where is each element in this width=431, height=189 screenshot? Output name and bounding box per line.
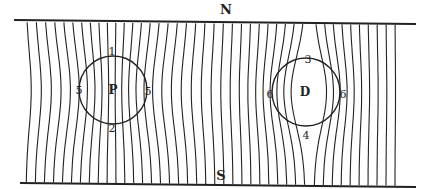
north-pole-plate — [14, 20, 416, 24]
body-D-marker-top: 3 — [305, 53, 312, 66]
body-D-label: D — [300, 85, 310, 99]
body-P-marker-right: 5 — [145, 85, 152, 98]
south-label: S — [216, 168, 225, 183]
field-line — [162, 23, 170, 183]
field-line — [144, 23, 152, 183]
field-line — [256, 24, 260, 185]
field-line — [377, 25, 378, 186]
field-line — [211, 24, 215, 185]
field-line — [44, 22, 51, 182]
field-line — [239, 24, 242, 185]
field-line — [129, 23, 134, 183]
field-line — [72, 23, 80, 183]
body-P-marker-left: 5 — [76, 84, 83, 97]
field-line — [359, 25, 362, 186]
field-line — [248, 24, 251, 185]
body-D-marker-bottom: 4 — [303, 129, 310, 142]
field-line — [323, 24, 333, 185]
field-diagram: N S P 1 2 5 5 D 3 4 6 6 — [0, 0, 431, 189]
field-line — [191, 23, 196, 183]
field-line — [181, 23, 187, 183]
field-line — [230, 24, 233, 185]
field-line — [63, 22, 71, 182]
field-line — [221, 24, 224, 185]
field-line — [263, 24, 269, 185]
body-D-marker-right: 6 — [340, 88, 347, 101]
south-pole-plate — [20, 183, 416, 187]
field-line — [332, 24, 340, 185]
field-line — [26, 22, 31, 182]
north-label: N — [220, 2, 232, 17]
body-P-marker-top: 1 — [109, 45, 116, 58]
field-line — [350, 24, 354, 185]
field-line — [341, 24, 347, 185]
body-P-marker-bottom: 2 — [109, 122, 116, 135]
field-line — [291, 24, 305, 185]
field-line — [368, 25, 370, 186]
field-line — [395, 25, 396, 186]
field-line — [122, 23, 125, 183]
body-D-marker-left: 6 — [267, 88, 274, 101]
field-line — [277, 24, 287, 185]
field-line — [136, 23, 143, 183]
field-line — [201, 23, 205, 184]
field-line — [89, 23, 95, 183]
field-line — [98, 23, 102, 183]
field-line — [153, 23, 161, 183]
body-P-label: P — [108, 83, 117, 97]
field-line — [35, 22, 41, 182]
field-line — [171, 23, 178, 184]
field-line — [386, 25, 387, 186]
field-line — [54, 22, 62, 182]
